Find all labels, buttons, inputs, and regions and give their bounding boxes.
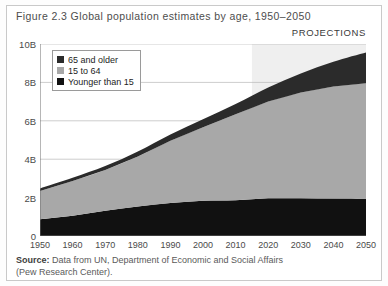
y-tick-label: 6B	[24, 115, 36, 126]
x-tick-label: 2030	[291, 240, 311, 250]
legend-swatch-icon	[57, 78, 64, 85]
y-tick-label: 2B	[24, 192, 36, 203]
source-line2: (Pew Research Center).	[16, 267, 113, 277]
source-lead: Source:	[16, 255, 50, 265]
legend-swatch-icon	[57, 67, 64, 74]
x-tick-label: 1990	[160, 240, 180, 250]
legend-label: 65 and older	[68, 55, 118, 65]
legend-item: 15 to 64	[57, 65, 134, 76]
legend-label: Younger than 15	[68, 77, 134, 87]
legend-item: Younger than 15	[57, 76, 134, 87]
source-caption: Source: Data from UN, Department of Econ…	[16, 254, 366, 278]
chart-legend: 65 and older15 to 64Younger than 15	[52, 50, 141, 91]
x-axis-labels: 1950196019701980199020002010202020302040…	[40, 240, 366, 254]
figure-container: Figure 2.3 Global population estimates b…	[0, 0, 388, 286]
projections-label: PROJECTIONS	[292, 27, 366, 38]
x-tick-label: 2010	[226, 240, 246, 250]
y-axis-labels: 02B4B6B8B10B	[8, 44, 36, 236]
figure-title: Figure 2.3 Global population estimates b…	[16, 10, 311, 22]
x-tick-label: 2050	[356, 240, 376, 250]
legend-item: 65 and older	[57, 54, 134, 65]
x-tick-label: 1980	[128, 240, 148, 250]
x-tick-label: 2020	[258, 240, 278, 250]
y-tick-label: 10B	[19, 39, 36, 50]
x-tick-label: 1950	[30, 240, 50, 250]
source-text: Data from UN, Department of Economic and…	[50, 255, 283, 265]
legend-swatch-icon	[57, 56, 64, 63]
y-tick-label: 4B	[24, 154, 36, 165]
x-tick-label: 1960	[63, 240, 83, 250]
y-tick-label: 8B	[24, 77, 36, 88]
legend-label: 15 to 64	[68, 66, 101, 76]
x-tick-label: 2040	[323, 240, 343, 250]
x-tick-label: 2000	[193, 240, 213, 250]
x-tick-label: 1970	[95, 240, 115, 250]
